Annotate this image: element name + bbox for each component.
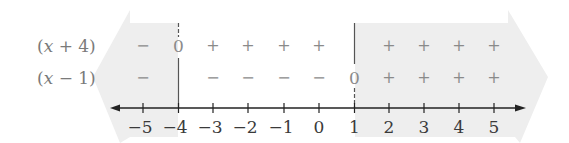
- sign: +: [487, 36, 500, 55]
- sign: −: [312, 68, 325, 87]
- zero-marker: 0: [349, 68, 360, 88]
- tick-label: 1: [349, 117, 360, 137]
- sign: +: [382, 36, 395, 55]
- sign: −: [136, 68, 149, 87]
- zero-marker: 0: [173, 36, 184, 56]
- tick-label: −5: [127, 117, 152, 137]
- sign: +: [417, 68, 430, 87]
- tick-label: 4: [454, 117, 465, 137]
- sign: +: [487, 68, 500, 87]
- tick-label: 5: [489, 117, 500, 137]
- tick-label: 3: [419, 117, 430, 137]
- tick-label: −3: [197, 117, 222, 137]
- sign: +: [382, 68, 395, 87]
- sign: +: [277, 36, 290, 55]
- tick-label: −2: [232, 117, 257, 137]
- tick-label: 2: [384, 117, 395, 137]
- sign: −: [136, 36, 149, 55]
- sign: +: [452, 68, 465, 87]
- sign: −: [277, 68, 290, 87]
- row-label-x-minus-1: (x − 1): [37, 68, 96, 88]
- sign: +: [241, 36, 254, 55]
- sign: +: [206, 36, 219, 55]
- tick-label: −1: [268, 117, 293, 137]
- sign: +: [312, 36, 325, 55]
- tick-label: −4: [162, 117, 187, 137]
- tick-label: 0: [314, 117, 325, 137]
- sign: +: [452, 36, 465, 55]
- row-label-x-plus-4: (x + 4): [37, 36, 96, 56]
- number-line-axis: −5 −4 −3 −2 −1 0 1 2 3 4 5: [110, 103, 526, 137]
- sign: +: [417, 36, 430, 55]
- sign-chart-diagram: (x + 4) (x − 1) − 0 + + + + + + + +: [0, 0, 569, 143]
- sign: −: [241, 68, 254, 87]
- sign: −: [206, 68, 219, 87]
